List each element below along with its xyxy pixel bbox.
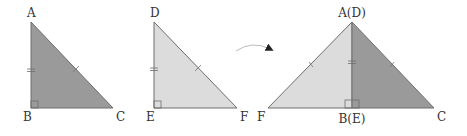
triangle-abc-shape [31, 22, 113, 108]
triangle-def-shape [154, 22, 237, 108]
combined-left-half [268, 22, 352, 108]
vertex-label-c: C [116, 110, 125, 124]
vertex-label-d: D [150, 6, 160, 20]
vertex-label-f: F [240, 110, 248, 124]
combined-triangle: A(D) B(E) F C [257, 6, 446, 126]
triangle-abc: A B C [23, 6, 125, 124]
vertex-label-ad: A(D) [337, 6, 366, 20]
combined-right-half [352, 22, 434, 108]
triangle-def: D E F [146, 6, 248, 124]
vertex-label-c-combined: C [437, 110, 446, 124]
triangle-congruence-diagram: A B C D E F A(D) B(E) F C [0, 0, 467, 136]
vertex-label-be: B(E) [339, 112, 366, 126]
vertex-label-a: A [26, 6, 36, 20]
flip-arrow-icon [236, 45, 270, 51]
vertex-label-b: B [23, 110, 32, 124]
vertex-label-e: E [146, 110, 155, 124]
vertex-label-f-combined: F [257, 110, 265, 124]
